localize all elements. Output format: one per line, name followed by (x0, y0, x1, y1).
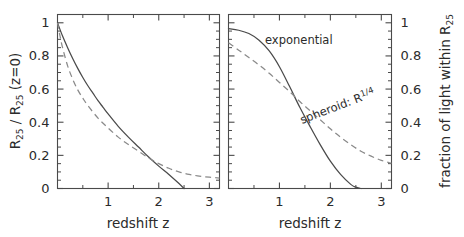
ylabel-sub1: 25 (15, 128, 25, 139)
svg-text:fraction of light within R25: fraction of light within R25 (437, 14, 455, 188)
left-panel-y-tick-labels: 00.20.40.60.81 (29, 15, 50, 196)
x-tick-label: 2 (155, 194, 163, 209)
svg-text:R25 / R25 (z=0): R25 / R25 (z=0) (7, 53, 25, 150)
y-tick-label: 0.4 (29, 115, 50, 130)
scientific-figure: 123 00.20.40.60.81 redshift z R25 / R25 … (0, 0, 464, 237)
right-panel-y-axis-label: fraction of light within R25 (437, 14, 455, 188)
y-tick-label: 0.2 (29, 148, 50, 163)
series-curve-dashed (229, 43, 392, 164)
right-panel-y-tick-labels: 00.20.40.60.81 (401, 15, 422, 196)
y-tick-label: 0.8 (29, 48, 50, 63)
series-curve-solid (58, 23, 185, 189)
y-tick-label: 0.6 (401, 82, 422, 97)
left-panel-x-tick-labels: 123 (104, 194, 214, 209)
left-panel-x-axis-label: redshift z (107, 215, 170, 231)
y-tick-label: 0.2 (401, 148, 422, 163)
left-panel: 123 00.20.40.60.81 redshift z R25 / R25 … (7, 15, 220, 232)
right-panel: 123 00.20.40.60.81 redshift z fraction o… (229, 14, 456, 231)
x-tick-label: 3 (377, 194, 385, 209)
right-panel-x-tick-labels: 123 (275, 194, 385, 209)
y-tick-label: 0.4 (401, 115, 422, 130)
left-panel-curves (58, 23, 220, 189)
left-panel-y-axis-label: R25 / R25 (z=0) (7, 53, 25, 150)
y-tick-label: 0.8 (401, 48, 422, 63)
annotation-spheroid-exponent: 1/4 (359, 85, 375, 99)
annotation-exponential: exponential (265, 33, 333, 47)
annotation-spheroid: spheroid: R1/4 (298, 85, 377, 127)
series-curve-dashed (58, 23, 220, 178)
left-panel-frame (58, 15, 220, 189)
ylabel-head: fraction of light within R (437, 26, 453, 188)
svg-text:spheroid: R1/4: spheroid: R1/4 (298, 85, 377, 127)
x-tick-label: 1 (104, 194, 112, 209)
y-tick-label: 0 (401, 181, 409, 196)
ylabel-r2: R (7, 106, 23, 115)
x-tick-label: 2 (326, 194, 334, 209)
y-tick-label: 0.6 (29, 82, 50, 97)
left-panel-ticks (58, 15, 220, 189)
ylabel-r1: R (7, 140, 23, 149)
right-panel-x-axis-label: redshift z (279, 215, 342, 231)
ylabel-slash: / (7, 115, 23, 128)
ylabel-sub2: 25 (15, 94, 25, 105)
ylabel-tail: (z=0) (7, 53, 23, 95)
figure-container: 123 00.20.40.60.81 redshift z R25 / R25 … (0, 0, 464, 237)
y-tick-label: 0 (41, 181, 49, 196)
ylabel-sub: 25 (445, 14, 455, 25)
y-tick-label: 1 (401, 15, 409, 30)
x-tick-label: 3 (205, 194, 213, 209)
y-tick-label: 1 (41, 15, 49, 30)
x-tick-label: 1 (275, 194, 283, 209)
